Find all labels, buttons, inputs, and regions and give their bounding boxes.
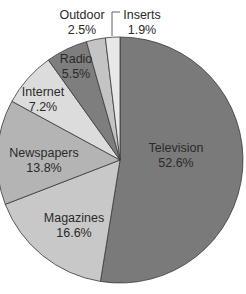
label-name: Television: [149, 141, 204, 156]
label-name: Magazines: [44, 211, 104, 226]
label-percent: 13.8%: [9, 161, 78, 176]
inserts-leader-line: [112, 12, 120, 36]
label-name: Inserts: [123, 8, 161, 23]
label-percent: 2.5%: [59, 23, 104, 38]
label-magazines: Magazines16.6%: [44, 211, 104, 241]
label-newspapers: Newspapers13.8%: [9, 146, 78, 176]
label-percent: 16.6%: [44, 226, 104, 241]
label-percent: 52.6%: [149, 156, 204, 171]
label-percent: 7.2%: [22, 100, 64, 115]
label-name: Internet: [22, 85, 64, 100]
label-percent: 5.5%: [60, 67, 93, 82]
label-percent: 1.9%: [123, 23, 161, 38]
label-radio: Radio5.5%: [60, 52, 93, 82]
label-television: Television52.6%: [149, 141, 204, 171]
label-name: Outdoor: [59, 8, 104, 23]
label-name: Newspapers: [9, 146, 78, 161]
label-outdoor: Outdoor2.5%: [59, 8, 104, 38]
label-name: Radio: [60, 52, 93, 67]
label-internet: Internet7.2%: [22, 85, 64, 115]
label-inserts: Inserts1.9%: [123, 8, 161, 38]
